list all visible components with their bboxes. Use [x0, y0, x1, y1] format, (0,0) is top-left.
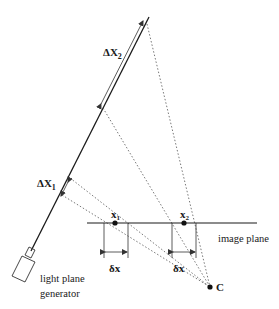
ray-x2-bottom	[103, 108, 210, 287]
light-plane-generator-icon	[12, 247, 35, 282]
triangulation-diagram: ΔX2 ΔX1 x1 x2 δx δx image plane C light …	[0, 0, 279, 309]
delta-x2-bracket	[172, 223, 196, 258]
projection-rays	[62, 24, 210, 287]
label-delta-x1: ΔX1	[37, 177, 56, 192]
delta-x2-arrow	[101, 21, 143, 104]
label-camera-center: C	[216, 281, 224, 293]
camera-center-point	[207, 284, 212, 289]
label-image-plane: image plane	[218, 233, 269, 244]
label-generator-line1: light plane	[40, 273, 85, 284]
label-delta-x-1: δx	[109, 262, 121, 274]
label-x2: x2	[180, 208, 190, 222]
label-generator-line2: generator	[40, 288, 80, 299]
label-delta-x2: ΔX2	[103, 46, 122, 61]
label-x1: x1	[111, 208, 121, 222]
light-plane-line	[31, 17, 149, 251]
label-delta-x-2: δx	[173, 262, 185, 274]
ray-x1-top	[70, 178, 210, 287]
ray-x2-top	[147, 24, 210, 287]
